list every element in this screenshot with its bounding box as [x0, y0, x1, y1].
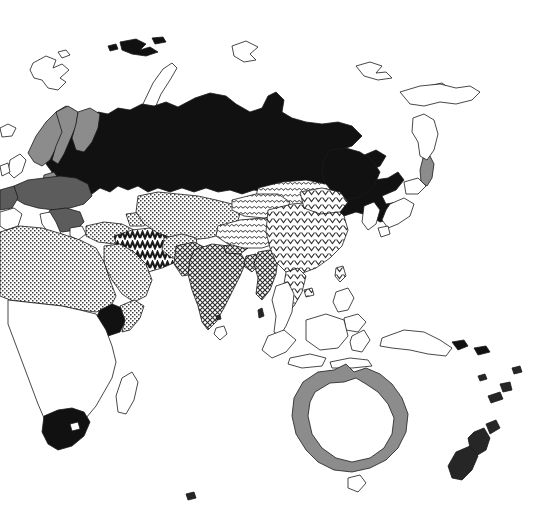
- region-lesotho-hole: [70, 422, 80, 431]
- thematic-map-figure: Eastern Hemisphere Thematic Map Eastern …: [0, 0, 551, 530]
- world-map-svg: [0, 0, 551, 530]
- region-indian-ocean-islet: [216, 315, 221, 320]
- region-central-europe: [14, 176, 92, 210]
- region-hainan: [304, 288, 314, 297]
